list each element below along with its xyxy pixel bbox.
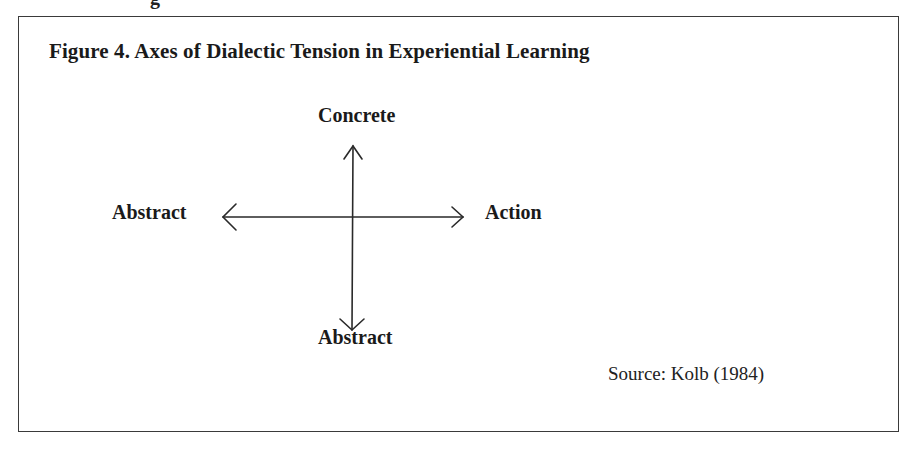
- axis-label-right: Action: [485, 201, 542, 224]
- vertical-axis-line: [352, 146, 353, 330]
- axis-label-left: Abstract: [112, 201, 186, 224]
- axis-label-bottom: Abstract: [318, 326, 392, 349]
- axis-label-top: Concrete: [318, 104, 395, 127]
- axes-diagram: [0, 0, 921, 454]
- source-citation: Source: Kolb (1984): [608, 363, 764, 385]
